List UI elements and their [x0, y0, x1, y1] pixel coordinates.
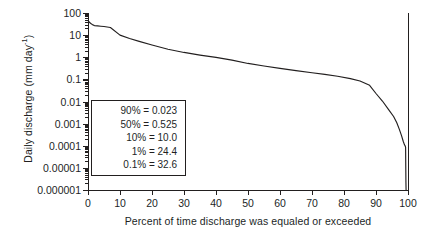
annotation-box: 90% = 0.02350% = 0.52510% = 10.01% = 24.… — [91, 100, 186, 176]
y-tick-label: 1 — [75, 51, 81, 63]
x-tick — [120, 190, 121, 195]
y-tick-minor — [85, 135, 88, 136]
y-tick-minor — [85, 157, 88, 158]
x-tick — [152, 190, 153, 195]
y-tick-label: 0.000001 — [37, 184, 81, 196]
y-axis-title-text: Daily discharge (mm day — [22, 45, 34, 163]
y-tick-minor — [85, 20, 88, 21]
x-tick — [248, 190, 249, 195]
annotation-row: 10% = 10.0 — [92, 131, 177, 144]
y-tick-label: 0.01 — [61, 96, 81, 108]
y-tick-minor — [85, 80, 88, 81]
y-tick-minor — [85, 44, 88, 45]
y-tick-minor — [85, 58, 88, 59]
y-tick-minor — [85, 40, 88, 41]
y-tick-label: 10 — [69, 29, 81, 41]
x-tick — [280, 190, 281, 195]
y-tick-minor — [85, 86, 88, 87]
y-tick-minor — [85, 106, 88, 107]
y-tick-minor — [85, 91, 88, 92]
annotation-row: 90% = 0.023 — [92, 104, 177, 117]
x-tick-label: 80 — [338, 197, 350, 209]
y-tick-minor — [85, 59, 88, 60]
x-axis-title: Percent of time discharge was equaled or… — [88, 215, 408, 227]
x-tick-label: 30 — [178, 197, 190, 209]
x-tick-label: 10 — [114, 197, 126, 209]
y-tick-minor — [85, 179, 88, 180]
y-tick-minor — [85, 69, 88, 70]
annotation-row: 50% = 0.525 — [92, 118, 177, 131]
y-axis-title-exponent: -1 — [20, 38, 29, 45]
y-tick-label: 0.1 — [66, 73, 81, 85]
y-tick-label: 0.001 — [55, 118, 81, 130]
y-tick-minor — [85, 175, 88, 176]
x-tick — [344, 190, 345, 195]
y-tick-minor — [85, 177, 88, 178]
x-tick — [408, 190, 409, 195]
x-tick — [376, 190, 377, 195]
x-tick-label: 40 — [210, 197, 222, 209]
y-tick-minor — [85, 152, 88, 153]
x-tick-label: 100 — [399, 197, 417, 209]
y-tick-minor — [85, 18, 88, 19]
y-tick-minor — [85, 104, 88, 105]
y-tick-minor — [85, 148, 88, 149]
y-tick-label: 0.0001 — [49, 140, 81, 152]
y-axis-title: Daily discharge (mm day-1) — [20, 9, 34, 189]
y-tick-minor — [85, 82, 88, 83]
y-tick-minor — [85, 130, 88, 131]
x-tick — [216, 190, 217, 195]
y-tick-minor — [85, 88, 88, 89]
y-tick-minor — [85, 105, 88, 106]
x-tick — [312, 190, 313, 195]
y-tick-minor — [85, 108, 88, 109]
x-tick-label: 60 — [274, 197, 286, 209]
x-tick — [184, 190, 185, 195]
y-axis-title-tail: ) — [22, 35, 34, 39]
y-tick-minor — [85, 47, 88, 48]
y-tick-minor — [85, 129, 88, 130]
y-tick-minor — [85, 183, 88, 184]
y-tick-minor — [85, 155, 88, 156]
y-tick-minor — [85, 103, 88, 104]
annotation-row: 0.1% = 32.6 — [92, 158, 177, 171]
y-tick-minor — [85, 36, 88, 37]
y-tick-minor — [85, 37, 88, 38]
y-tick-minor — [85, 28, 88, 29]
y-tick-minor — [85, 161, 88, 162]
y-tick-minor — [85, 14, 88, 15]
y-tick-minor — [85, 169, 88, 170]
y-tick-minor — [85, 126, 88, 127]
y-tick-minor — [85, 83, 88, 84]
x-tick-label: 20 — [146, 197, 158, 209]
y-tick-minor — [85, 16, 88, 17]
x-tick — [88, 190, 89, 195]
x-tick-label: 50 — [242, 197, 254, 209]
y-tick-minor — [85, 147, 88, 148]
y-tick-minor — [85, 66, 88, 67]
y-tick-minor — [85, 25, 88, 26]
annotation-row: 1% = 24.4 — [92, 145, 177, 158]
y-tick-minor — [85, 15, 88, 16]
y-tick-minor — [85, 64, 88, 65]
y-tick-minor — [85, 62, 88, 63]
y-tick-minor — [85, 117, 88, 118]
y-tick-minor — [85, 110, 88, 111]
y-tick-minor — [85, 22, 88, 23]
y-tick-minor — [85, 51, 88, 52]
y-tick-minor — [85, 95, 88, 96]
y-tick-minor — [85, 149, 88, 150]
y-tick-minor — [85, 171, 88, 172]
y-tick-minor — [85, 132, 88, 133]
y-tick-minor — [85, 139, 88, 140]
y-tick-minor — [85, 84, 88, 85]
y-tick-label: 0.00001 — [43, 162, 81, 174]
y-tick-minor — [85, 125, 88, 126]
x-tick-label: 70 — [306, 197, 318, 209]
y-tick-minor — [85, 39, 88, 40]
y-tick-minor — [85, 113, 88, 114]
y-tick-minor — [85, 173, 88, 174]
x-tick-label: 90 — [370, 197, 382, 209]
y-tick-label: 100 — [63, 7, 81, 19]
y-tick-minor — [85, 151, 88, 152]
